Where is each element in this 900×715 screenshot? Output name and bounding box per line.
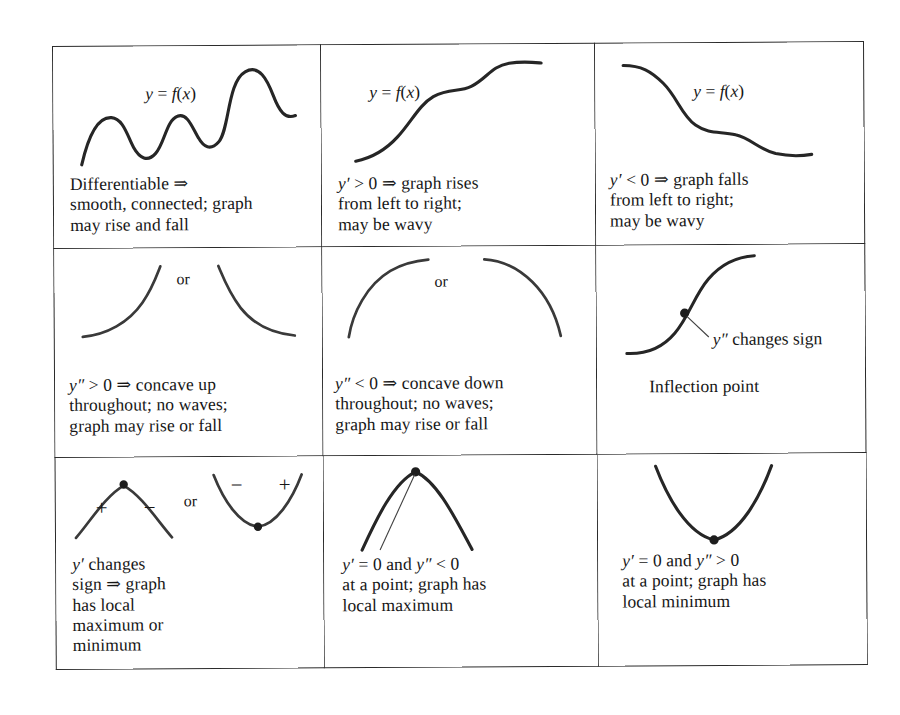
- caption-increasing: y′ > 0 ⇒ graph rises from left to right;…: [338, 172, 592, 234]
- figure-arch-local-maximum: [344, 461, 585, 558]
- caption-inflection-point: Inflection point: [649, 375, 865, 397]
- table-row: y = f(x) Differentiable ⇒ smooth, connec…: [53, 42, 865, 249]
- graph-behavior-table: y = f(x) Differentiable ⇒ smooth, connec…: [52, 41, 868, 670]
- caption-concave-down: y″ < 0 ⇒ concave down throughout; no wav…: [335, 372, 593, 434]
- minimum-dot: [709, 535, 718, 544]
- figure-label-function: y = f(x): [369, 82, 420, 103]
- caption-decreasing: y′ < 0 ⇒ graph falls from left to right;…: [610, 168, 862, 230]
- cell-differentiable: y = f(x) Differentiable ⇒ smooth, connec…: [53, 45, 322, 249]
- caption-concave-up: y″ > 0 ⇒ concave up throughout; no waves…: [69, 373, 321, 435]
- figure-valley-local-minimum: [626, 459, 857, 552]
- inflection-dot: [680, 309, 689, 318]
- caption-differentiable: Differentiable ⇒ smooth, connected; grap…: [70, 172, 318, 234]
- caption-local-extremum: y′ changes sign ⇒ graph has local maximu…: [72, 552, 313, 655]
- cell-concave-up: or y″ > 0 ⇒ concave up throughout; no wa…: [54, 247, 323, 458]
- or-label: or: [176, 270, 189, 288]
- table-row: or y″ > 0 ⇒ concave up throughout; no wa…: [54, 244, 866, 458]
- cell-decreasing: y = f(x) y′ < 0 ⇒ graph falls from left …: [594, 42, 864, 246]
- figure-label-function: y = f(x): [145, 83, 196, 104]
- figure-concave-down-pair: [334, 256, 590, 358]
- figure-rising-s-curve: [341, 56, 592, 170]
- sign-label-plus-left: +: [96, 496, 108, 521]
- sign-label-minus-left: −: [144, 495, 156, 520]
- cell-local-minimum: y′ = 0 and y″ > 0 at a point; graph has …: [597, 453, 867, 667]
- figure-concave-up-pair: [66, 259, 317, 361]
- annotation-second-derivative-sign: y″ changes sign: [713, 328, 822, 350]
- table-row: + − or − + y′ changes sign ⇒ graph has l…: [55, 453, 867, 670]
- cell-local-extremum: + − or − + y′ changes sign ⇒ graph has l…: [55, 456, 324, 670]
- or-label: or: [434, 273, 447, 291]
- caption-local-maximum: y′ = 0 and y″ < 0 at a point; graph has …: [342, 553, 592, 615]
- or-label: or: [184, 492, 197, 510]
- maximum-dot: [119, 480, 127, 488]
- minimum-dot: [254, 523, 262, 531]
- figure-wavy-rising-curve: [63, 53, 314, 171]
- caption-local-minimum: y′ = 0 and y″ > 0 at a point; graph has …: [622, 549, 862, 611]
- cell-concave-down: or y″ < 0 ⇒ concave down throughout; no …: [322, 245, 597, 456]
- figure-inflection-curve: [612, 250, 853, 367]
- sign-label-plus-right: +: [279, 473, 291, 498]
- sign-label-minus-right: −: [231, 473, 243, 498]
- figure-label-function: y = f(x): [693, 81, 744, 102]
- page-canvas: y = f(x) Differentiable ⇒ smooth, connec…: [0, 0, 900, 715]
- figure-falling-s-curve: [607, 52, 858, 166]
- cell-inflection-point: y″ changes sign Inflection point: [596, 244, 866, 455]
- cell-local-maximum: y′ = 0 and y″ < 0 at a point; graph has …: [323, 454, 598, 668]
- maximum-dot: [411, 467, 420, 476]
- summary-table-wrapper: y = f(x) Differentiable ⇒ smooth, connec…: [52, 41, 864, 666]
- cell-increasing: y = f(x) y′ > 0 ⇒ graph rises from left …: [320, 43, 595, 247]
